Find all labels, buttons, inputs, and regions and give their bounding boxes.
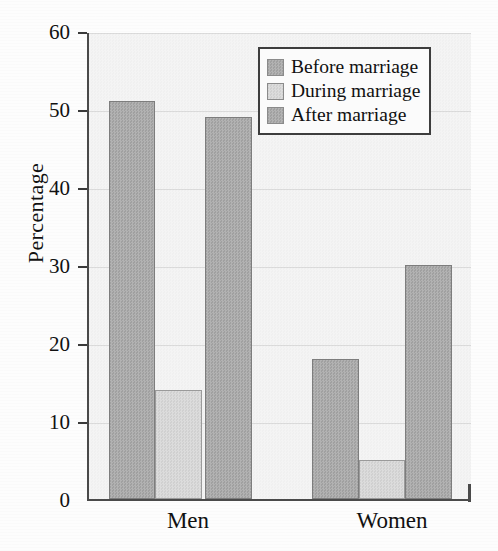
bar-women-after xyxy=(405,265,452,499)
y-tick-mark-20 xyxy=(78,344,87,346)
bar-women-before xyxy=(312,359,359,499)
legend-swatch-icon-during xyxy=(267,83,284,100)
legend-label: After marriage xyxy=(291,105,406,125)
legend-item-after: After marriage xyxy=(267,103,420,127)
x-category-label-men: Men xyxy=(118,508,258,534)
legend-item-during: During marriage xyxy=(267,79,420,103)
bar-chart-figure: Percentage 6050403020100 MenWomen Before… xyxy=(0,0,498,551)
legend-items: Before marriageDuring marriageAfter marr… xyxy=(267,55,420,127)
gridline-60 xyxy=(89,33,471,34)
bar-men-during xyxy=(155,390,202,499)
y-tick-label-10: 10 xyxy=(28,412,70,433)
y-tick-label-20: 20 xyxy=(28,334,70,355)
y-tick-label-50: 50 xyxy=(28,100,70,121)
y-tick-label-40: 40 xyxy=(28,178,70,199)
y-tick-mark-50 xyxy=(78,110,87,112)
y-tick-label-30: 30 xyxy=(28,256,70,277)
y-tick-mark-60 xyxy=(78,32,87,34)
bar-women-during xyxy=(359,460,405,499)
legend-item-before: Before marriage xyxy=(267,55,420,79)
x-category-label-women: Women xyxy=(322,508,462,534)
y-tick-label-0: 0 xyxy=(28,490,70,511)
bar-men-after xyxy=(205,117,252,499)
y-tick-mark-10 xyxy=(78,422,87,424)
x-axis-right-tick xyxy=(468,484,471,502)
legend-label: During marriage xyxy=(291,81,420,101)
y-tick-mark-30 xyxy=(78,266,87,268)
legend-swatch-icon-before xyxy=(267,59,284,76)
bar-men-before xyxy=(109,101,155,499)
legend: Before marriageDuring marriageAfter marr… xyxy=(258,47,431,135)
legend-swatch-icon-after xyxy=(267,107,284,124)
y-tick-mark-40 xyxy=(78,188,87,190)
legend-label: Before marriage xyxy=(291,57,418,77)
y-tick-label-60: 60 xyxy=(28,22,70,43)
